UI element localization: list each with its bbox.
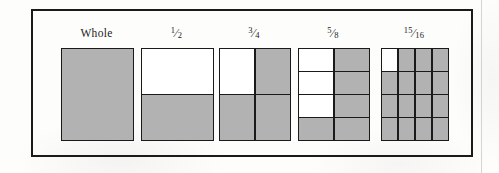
- shaded-cell: [416, 72, 431, 94]
- shaded-cell: [433, 49, 448, 71]
- shaded-cell: [416, 95, 431, 117]
- shaded-cell: [299, 118, 333, 140]
- figure-root: Whole1⁄23⁄45⁄815⁄16: [0, 0, 499, 173]
- fraction-numerator: 15: [404, 25, 413, 35]
- fraction-denominator: 8: [334, 30, 339, 40]
- unit-label-whole: Whole: [61, 26, 132, 42]
- unit-label-one-half: 1⁄2: [141, 26, 212, 42]
- shaded-cell: [142, 95, 213, 140]
- fraction-rectangle-three-quarters: [219, 48, 291, 141]
- unit-label-fifteen-sixteenths: 15⁄16: [381, 26, 447, 42]
- unshaded-cell: [220, 49, 254, 94]
- shaded-cell: [416, 49, 431, 71]
- fraction-rectangle-one-half: [141, 48, 214, 141]
- fraction-glyph-one-half: 1⁄2: [171, 26, 183, 39]
- shaded-cell: [335, 49, 369, 71]
- unshaded-cell: [142, 49, 213, 94]
- fraction-rectangle-fifteen-sixteenths: [381, 48, 449, 141]
- shaded-cell: [382, 95, 397, 117]
- fraction-denominator: 2: [178, 30, 183, 40]
- shaded-cell: [399, 118, 414, 140]
- shaded-cell: [335, 72, 369, 94]
- fraction-denominator: 16: [415, 30, 424, 40]
- fraction-glyph-five-eighths: 5⁄8: [327, 26, 339, 39]
- fraction-rectangle-whole: [61, 48, 134, 141]
- unshaded-cell: [299, 95, 333, 117]
- shaded-cell: [399, 72, 414, 94]
- shaded-cell: [416, 118, 431, 140]
- fraction-glyph-fifteen-sixteenths: 15⁄16: [404, 26, 425, 39]
- shaded-cell: [382, 72, 397, 94]
- shaded-cell: [433, 95, 448, 117]
- shaded-cell: [256, 49, 290, 94]
- fraction-rectangle-five-eighths: [298, 48, 370, 141]
- shaded-cell: [335, 95, 369, 117]
- shaded-cell: [382, 118, 397, 140]
- unit-label-three-quarters: 3⁄4: [219, 26, 289, 42]
- unit-label-five-eighths: 5⁄8: [298, 26, 368, 42]
- shaded-cell: [433, 118, 448, 140]
- shaded-cell: [399, 49, 414, 71]
- shaded-cell: [220, 95, 254, 140]
- shaded-cell: [62, 49, 133, 140]
- unshaded-cell: [299, 72, 333, 94]
- shaded-cell: [399, 95, 414, 117]
- shaded-cell: [256, 95, 290, 140]
- fraction-diagram-group: Whole1⁄23⁄45⁄815⁄16: [0, 0, 499, 173]
- unshaded-cell: [299, 49, 333, 71]
- shaded-cell: [335, 118, 369, 140]
- shaded-cell: [433, 72, 448, 94]
- fraction-denominator: 4: [255, 30, 260, 40]
- fraction-glyph-three-quarters: 3⁄4: [248, 26, 260, 39]
- unshaded-cell: [382, 49, 397, 71]
